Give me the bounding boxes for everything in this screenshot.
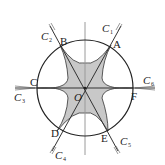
svg-text:2: 2 [49,37,52,43]
label-F: F [131,90,137,102]
curve-label-C4: C 4 [55,149,66,162]
curve-label-C6: C 6 [143,74,154,87]
label-C: C [30,76,37,88]
center-point-O [84,87,87,90]
label-E: E [101,132,108,144]
label-D: D [51,127,59,139]
svg-text:4: 4 [63,156,66,162]
curve-label-C2: C 2 [41,30,52,43]
svg-text:C: C [41,30,49,42]
curve-label-C1: C 1 [102,22,113,35]
svg-text:C: C [55,149,63,161]
svg-text:6: 6 [151,81,154,87]
svg-text:3: 3 [22,98,25,104]
svg-text:C: C [14,91,22,103]
svg-text:C: C [102,22,110,34]
svg-text:C: C [120,135,128,147]
curve-label-C3: C 3 [14,91,25,104]
label-O: O [74,91,82,103]
svg-text:5: 5 [128,142,131,148]
curve-label-C5: C 5 [120,135,131,148]
svg-text:1: 1 [110,29,113,35]
label-B: B [60,35,67,47]
geometry-diagram: A B C D E F O C 1 C 2 C 3 C 4 C 5 C 6 [0,0,165,165]
svg-text:C: C [143,74,151,86]
label-A: A [113,38,121,50]
